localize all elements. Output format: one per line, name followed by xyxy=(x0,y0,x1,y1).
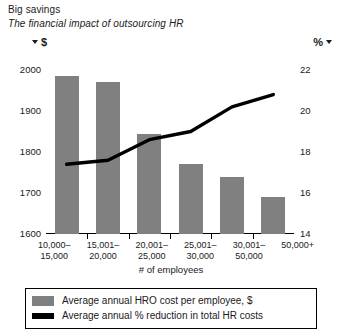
x-axis-title: # of employees xyxy=(0,264,342,275)
left-axis-tick-label: 1800 xyxy=(20,147,41,157)
x-axis-ticks xyxy=(46,234,294,239)
x-axis-tick xyxy=(253,234,254,239)
legend-item-bars: Average annual HRO cost per employee, $ xyxy=(32,293,310,308)
right-axis-tick-label: 20 xyxy=(300,106,311,116)
right-axis-unit: % xyxy=(313,36,332,48)
x-axis-tick xyxy=(211,234,212,239)
bar xyxy=(261,197,285,234)
chart-subtitle: The financial impact of outsourcing HR xyxy=(8,18,184,30)
bar xyxy=(55,76,79,234)
bar xyxy=(137,134,161,234)
left-axis-tick-label: 2000 xyxy=(20,65,41,75)
left-axis-unit-label: $ xyxy=(41,36,47,48)
bar-series xyxy=(46,70,294,234)
left-axis-tick-label: 1700 xyxy=(20,188,41,198)
legend-swatch-bar-icon xyxy=(32,296,54,306)
bar xyxy=(220,177,244,234)
bar xyxy=(96,82,120,234)
bar-slot xyxy=(87,70,128,234)
chart-container: Big savings The financial impact of outs… xyxy=(0,0,342,332)
bar-slot xyxy=(129,70,170,234)
x-axis-tick xyxy=(129,234,130,239)
right-axis-unit-label: % xyxy=(313,36,323,48)
chart-title: Big savings xyxy=(8,4,60,16)
bar-slot xyxy=(211,70,252,234)
legend-item-line: Average annual % reduction in total HR c… xyxy=(32,308,310,323)
x-axis-tick xyxy=(170,234,171,239)
left-axis-tick-label: 1600 xyxy=(20,229,41,239)
legend: Average annual HRO cost per employee, $ … xyxy=(25,288,317,329)
right-axis-tick-label: 16 xyxy=(300,188,311,198)
left-axis-unit: $ xyxy=(32,36,47,48)
right-axis-tick-label: 14 xyxy=(300,229,311,239)
triangle-down-icon xyxy=(326,40,332,44)
x-axis-tick xyxy=(87,234,88,239)
right-axis-tick-label: 18 xyxy=(300,147,311,157)
bar-slot xyxy=(253,70,294,234)
legend-label-bars: Average annual HRO cost per employee, $ xyxy=(62,295,252,306)
legend-label-line: Average annual % reduction in total HR c… xyxy=(62,310,263,321)
bar-slot xyxy=(170,70,211,234)
bar xyxy=(179,164,203,234)
bar-slot xyxy=(46,70,87,234)
right-axis-tick-label: 22 xyxy=(300,65,311,75)
plot-area: 20001900180017001600 2220181614 xyxy=(46,70,294,234)
triangle-down-icon xyxy=(32,40,38,44)
left-axis-tick-label: 1900 xyxy=(20,106,41,116)
legend-swatch-line-icon xyxy=(32,313,54,319)
